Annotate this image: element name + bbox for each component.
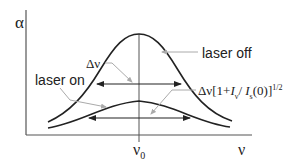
laser-off-label: laser off [202,46,252,60]
saturation-broadening-diagram: α Δν laser on laser off Δν[1+Iν/ Is(0)]1… [0,0,307,166]
broadened-width-leader [151,90,196,114]
center-frequency-label: ν0 [133,142,145,158]
broadened-width-suffix: (0)] [253,83,273,98]
y-axis-label: α [15,14,24,31]
broadened-width-prefix: Δν[1+ [198,83,230,98]
exponent: 1/2 [272,83,282,92]
broadened-width-label: Δν[1+Iν/ Is(0)]1/2 [198,84,282,97]
x-axis-label: ν [238,142,245,158]
delta-nu-leader [105,63,132,82]
nu-subscript: 0 [140,150,145,161]
delta-nu-label: Δν [86,57,100,70]
laser-on-leader [60,88,106,107]
laser-on-label: laser on [35,73,85,87]
